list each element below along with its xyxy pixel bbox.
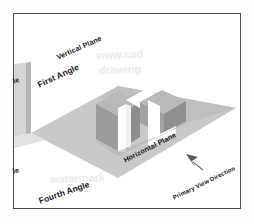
block-inner-rib-side bbox=[126, 104, 131, 148]
isometric-scene bbox=[0, 0, 254, 224]
arrow-up-left-icon bbox=[186, 154, 203, 170]
block-front-white-sliver bbox=[118, 112, 126, 152]
vertical-plane-edge bbox=[26, 62, 31, 135]
projection-quadrants-figure: www.cad drawing watermark bbox=[0, 0, 254, 224]
